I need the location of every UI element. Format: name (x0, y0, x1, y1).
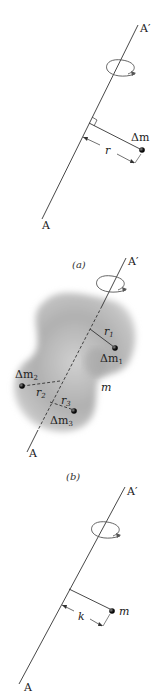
axis-bottom-label: A (23, 681, 33, 694)
panel-c: A′ A m k (19, 485, 138, 694)
rotation-arrow-icon (97, 276, 127, 292)
rotation-arrow-icon (107, 60, 136, 76)
axis-line (42, 25, 138, 219)
mass-dot (139, 147, 145, 153)
mass-3-dot (71, 408, 77, 414)
panel-caption: (b) (66, 471, 80, 482)
distance-label: k (78, 610, 85, 623)
moment-of-inertia-figure: A′ A Δm r (a) (0, 0, 154, 696)
axis-line (19, 487, 125, 684)
panel-caption: (a) (72, 259, 86, 270)
axis-top-label: A′ (126, 485, 138, 498)
mass-dot (109, 608, 115, 614)
body-mass-label: m (101, 381, 111, 394)
dimension-k (62, 605, 110, 626)
axis-top-label: A′ (139, 22, 151, 35)
axis-top-label: A′ (127, 255, 139, 268)
panel-b: A′ A r1 Δm1 Δm2 r2 r3 Δm3 m (b) (14, 255, 139, 482)
mass-1-dot (112, 345, 118, 351)
mass-2-dot (19, 383, 25, 389)
rotation-arrow-icon (92, 522, 121, 538)
radius-line (69, 589, 112, 610)
axis-line-top (102, 258, 126, 306)
panel-a: A′ A Δm r (a) (41, 22, 151, 270)
distance-label: r (105, 144, 111, 157)
axis-bottom-label: A (41, 219, 51, 232)
mass-label: m (119, 605, 129, 618)
mass-label: Δm (131, 131, 150, 144)
axis-bottom-label: A (28, 447, 38, 460)
